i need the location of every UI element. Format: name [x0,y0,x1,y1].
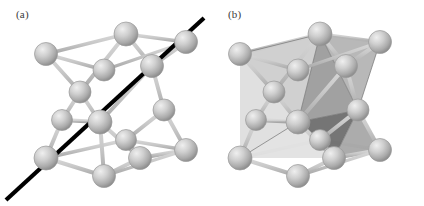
atom-sphere [116,130,137,151]
panel-b-label: (b) [228,8,241,20]
figure-container: (a) [0,0,424,206]
panel-b: (b) [212,0,424,206]
atom-sphere [153,99,175,121]
panel-a: (a) [0,0,212,206]
atom-sphere [88,110,112,134]
atom-sphere [52,110,73,131]
atom-sphere [323,147,346,170]
atom-sphere [369,31,392,54]
atom-sphere [263,81,285,103]
atom-sphere [369,139,392,162]
atom-sphere [229,43,252,66]
panel-a-label: (a) [16,8,29,20]
atom-sphere [114,22,138,46]
atom-sphere [175,139,198,162]
atom-sphere [310,130,331,151]
atom-sphere [287,59,309,81]
atom-sphere [228,146,252,170]
atom-sphere [335,55,358,78]
atom-sphere [347,99,369,121]
atom-sphere [129,147,152,170]
panel-b-graphic [212,0,424,206]
atom-sphere [34,146,58,170]
atom-sphere [69,81,91,103]
panel-a-graphic [0,0,212,206]
atom-sphere [287,165,310,188]
atom-sphere [246,110,267,131]
atom-sphere [175,31,198,54]
atom-sphere [308,22,332,46]
atom-sphere [35,43,58,66]
atom-sphere [93,59,115,81]
atom-sphere [141,55,164,78]
atom-sphere [93,165,116,188]
atom-sphere [286,110,310,134]
